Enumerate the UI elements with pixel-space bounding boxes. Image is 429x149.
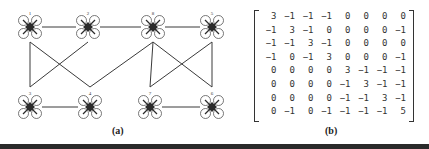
matrix-cell: 0 [353,10,372,24]
matrix-cell: 3 [371,92,390,106]
matrix-cell: 0 [390,10,409,24]
matrix-cell: −1 [297,51,316,65]
matrix-cell: 0 [371,10,390,24]
graph-edges [30,27,212,107]
matrix-cell: −1 [260,24,279,38]
matrix-cell: 0 [334,24,353,38]
matrix-row: −13−10000−1 [260,24,408,38]
drone-node-3-icon: 3 [18,91,42,119]
drone-node-5-icon: 5 [200,11,224,39]
matrix-cell: 0 [334,51,353,65]
matrix-cell: 5 [390,105,409,119]
drone-node-6-icon: 6 [200,91,224,119]
matrix-cell: 3 [260,10,279,24]
matrix-cell: −1 [371,64,390,78]
matrix-row: −10−13000−1 [260,51,408,65]
matrix-cell: −1 [297,24,316,38]
matrix-cell: 0 [371,24,390,38]
matrix-row: 00003−1−1−1 [260,64,408,78]
matrix-cell: 0 [316,24,335,38]
matrix-right-bracket [409,10,414,122]
matrix-cell: 0 [260,78,279,92]
matrix-cell: −1 [353,64,372,78]
matrix-cell: 3 [279,24,298,38]
matrix-cell: −1 [390,51,409,65]
panel-b-laplacian-matrix: 3−1−1−10000−13−10000−1−1−13−10000−10−130… [240,0,429,140]
matrix-cell: 0 [316,78,335,92]
matrix-row: 0000−1−13−1 [260,92,408,106]
matrix-cell: −1 [353,92,372,106]
matrix-cell: 0 [260,64,279,78]
matrix-cell: −1 [353,105,372,119]
matrix-cell: −1 [316,10,335,24]
matrix-cell: −1 [390,92,409,106]
matrix-cell: −1 [390,78,409,92]
matrix-cell: 3 [353,78,372,92]
bottom-divider-bar [0,144,429,149]
panel-a-drone-graph: 12853476 (a) [0,0,240,140]
matrix-cell: 0 [316,92,335,106]
matrix-cell: 0 [390,37,409,51]
laplacian-matrix: 3−1−1−10000−13−10000−1−1−13−10000−10−130… [254,6,414,124]
matrix-cell: −1 [371,78,390,92]
matrix-left-bracket [254,10,259,122]
matrix-cell: 3 [297,37,316,51]
matrix-cell: 0 [371,37,390,51]
matrix-cell: 0 [260,92,279,106]
matrix-row: 0000−13−1−1 [260,78,408,92]
matrix-row: 3−1−1−10000 [260,10,408,24]
caption-a: (a) [112,125,124,136]
drone-graph-svg: 12853476 [0,0,240,140]
matrix-cell: −1 [279,37,298,51]
matrix-cell: 0 [279,64,298,78]
matrix-cell: −1 [279,105,298,119]
matrix-cell: −1 [334,78,353,92]
matrix-cell: −1 [316,105,335,119]
matrix-cell: −1 [334,105,353,119]
matrix-cell: 0 [279,92,298,106]
matrix-cell: 0 [297,92,316,106]
matrix-row: 0−10−1−1−1−15 [260,105,408,119]
caption-b: (b) [325,125,337,136]
matrix-cell: −1 [316,37,335,51]
matrix-cell: 0 [334,37,353,51]
edge-4-8 [90,42,153,87]
matrix-cell: 0 [297,78,316,92]
drone-node-2-icon: 2 [76,11,100,39]
matrix-cell: 0 [334,10,353,24]
matrix-cell: 3 [316,51,335,65]
drone-node-1-icon: 1 [18,11,42,39]
drone-node-7-icon: 7 [138,91,162,119]
matrix-cell: 0 [371,51,390,65]
matrix-cell: −1 [260,51,279,65]
matrix-cell: 0 [297,105,316,119]
drone-node-4-icon: 4 [78,91,102,119]
matrix-cell: 0 [279,78,298,92]
matrix-cell: −1 [390,24,409,38]
matrix-cell: −1 [334,92,353,106]
matrix-cell: −1 [260,37,279,51]
matrix-cell: −1 [279,10,298,24]
matrix-cell: −1 [297,10,316,24]
drone-node-8-icon: 8 [141,11,165,39]
matrix-cell: 0 [353,51,372,65]
matrix-cell: 0 [353,24,372,38]
matrix-cell: 0 [316,64,335,78]
matrix-cell: 3 [334,64,353,78]
edge-8-7 [150,42,153,87]
matrix-cell: 0 [353,37,372,51]
matrix-cell: 0 [260,105,279,119]
matrix-cell: 0 [279,51,298,65]
matrix-cell: 0 [297,64,316,78]
matrix-cell: −1 [371,105,390,119]
matrix-row: −1−13−10000 [260,37,408,51]
matrix-cell: −1 [390,64,409,78]
